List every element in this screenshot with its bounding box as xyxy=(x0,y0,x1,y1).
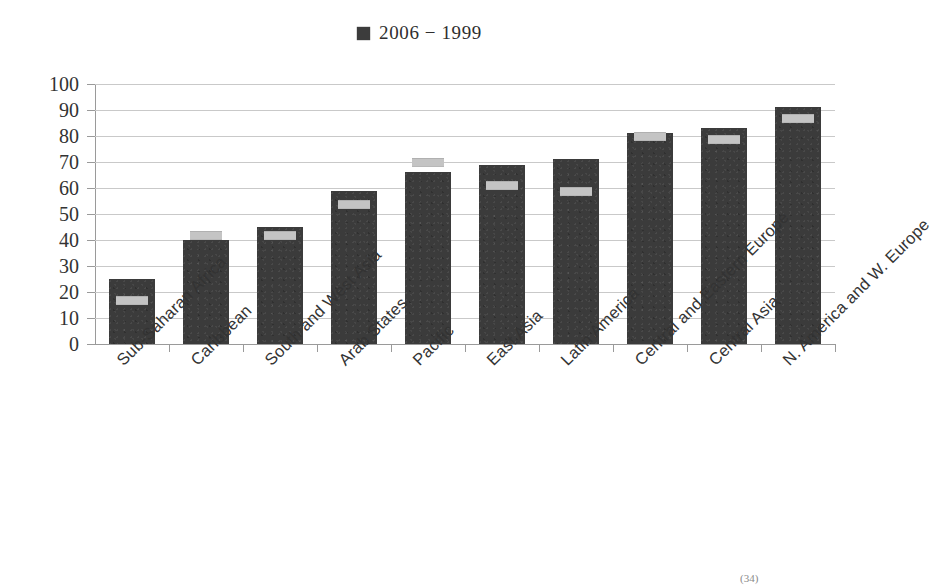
x-tick-7 xyxy=(687,344,688,352)
marker xyxy=(560,187,592,196)
y-tick-80 xyxy=(87,136,95,137)
marker xyxy=(338,200,370,209)
marker xyxy=(264,231,296,240)
x-tick-4 xyxy=(465,344,466,352)
x-tick-0 xyxy=(169,344,170,352)
y-tick-90 xyxy=(87,110,95,111)
x-tick-2 xyxy=(317,344,318,352)
marker xyxy=(412,158,444,167)
y-axis-label-30: 30 xyxy=(33,256,79,276)
legend-square-marker-icon xyxy=(357,27,370,40)
bar xyxy=(479,165,525,344)
x-tick-1 xyxy=(243,344,244,352)
y-axis-label-90: 90 xyxy=(33,100,79,120)
bar xyxy=(627,133,673,344)
gridline-100 xyxy=(95,84,835,85)
y-axis-label-20: 20 xyxy=(33,282,79,302)
y-tick-100 xyxy=(87,84,95,85)
y-axis-label-80: 80 xyxy=(33,126,79,146)
y-axis-label-50: 50 xyxy=(33,204,79,224)
marker xyxy=(708,135,740,144)
legend-label: 2006 − 1999 xyxy=(379,22,482,44)
y-tick-30 xyxy=(87,266,95,267)
y-axis-label-60: 60 xyxy=(33,178,79,198)
marker xyxy=(190,231,222,240)
y-tick-0 xyxy=(87,344,95,345)
chart-plot-area: 0102030405060708090100 xyxy=(95,84,835,344)
marker xyxy=(782,114,814,123)
chart-legend: 2006 − 1999 xyxy=(0,22,839,44)
x-tick-5 xyxy=(539,344,540,352)
x-tick-9 xyxy=(835,344,836,352)
bar xyxy=(701,128,747,344)
y-axis-label-40: 40 xyxy=(33,230,79,250)
gridline-90 xyxy=(95,110,835,111)
y-tick-70 xyxy=(87,162,95,163)
y-axis-label-70: 70 xyxy=(33,152,79,172)
y-tick-10 xyxy=(87,318,95,319)
marker xyxy=(116,296,148,305)
y-tick-40 xyxy=(87,240,95,241)
y-tick-50 xyxy=(87,214,95,215)
y-tick-20 xyxy=(87,292,95,293)
y-axis-label-0: 0 xyxy=(33,334,79,354)
y-axis-label-10: 10 xyxy=(33,308,79,328)
marker xyxy=(634,132,666,141)
y-tick-60 xyxy=(87,188,95,189)
x-tick-6 xyxy=(613,344,614,352)
x-tick-8 xyxy=(761,344,762,352)
x-tick-3 xyxy=(391,344,392,352)
bar xyxy=(405,172,451,344)
y-axis-label-100: 100 xyxy=(33,74,79,94)
marker xyxy=(486,181,518,190)
page-footnote: (34) xyxy=(740,572,758,584)
